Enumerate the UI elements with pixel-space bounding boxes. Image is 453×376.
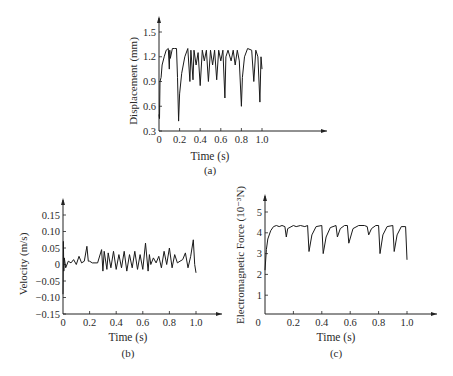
x-axis-arrow-icon [431, 312, 437, 316]
y-axis-arrow-icon [157, 16, 161, 23]
x-tick-label: 0.2 [173, 134, 186, 145]
y-tick-label: 5 [257, 207, 262, 218]
x-axis-label: Time (s) [191, 150, 230, 163]
y-tick-label: 1 [257, 290, 262, 301]
x-axis-arrow-icon [321, 129, 327, 133]
displacement-curve [159, 49, 262, 122]
x-tick-label: 0.8 [163, 317, 176, 328]
x-tick-label: 0.6 [344, 317, 357, 328]
y-tick-label: 0.05 [42, 243, 60, 254]
y-tick-label: 0.15 [42, 210, 60, 221]
x-tick-label: 0.4 [194, 134, 208, 145]
x-tick-label: 0 [60, 317, 65, 328]
x-tick-label: 0 [255, 317, 260, 328]
x-tick-label: 0.2 [83, 317, 96, 328]
x-axis-label: Time (s) [109, 331, 148, 344]
x-tick-label: 0 [156, 134, 161, 145]
figure: 00.20.40.60.81.00.30.60.91.21.5 Time (s)… [0, 0, 453, 376]
x-axis-arrow-icon [216, 312, 222, 316]
chart-velocity: 00.20.40.60.81.0−0.15−0.10−0.0500.050.10… [17, 198, 222, 360]
x-tick-label: 1.0 [255, 134, 268, 145]
x-tick-label: 0.4 [315, 317, 329, 328]
x-tick-label: 0.2 [287, 317, 300, 328]
y-tick-label: 0.3 [143, 126, 156, 137]
y-tick-label: −0.10 [36, 292, 60, 303]
x-tick-label: 0.6 [136, 317, 149, 328]
x-tick-label: 0.6 [214, 134, 227, 145]
chart-displacement: 00.20.40.60.81.00.30.60.91.21.5 Time (s)… [127, 16, 327, 177]
y-tick-label: 3 [257, 248, 262, 259]
y-tick-label: −0.05 [36, 276, 60, 287]
x-tick-label: 1.0 [400, 317, 413, 328]
x-axis-label: Time (s) [317, 331, 356, 344]
panel-caption: (a) [204, 164, 217, 177]
y-axis-label: Electromagnetic Force (10⁻³N) [234, 186, 247, 324]
x-tick-label: 0.8 [235, 134, 248, 145]
y-tick-label: 2 [257, 269, 262, 280]
y-axis-arrow-icon [61, 198, 65, 205]
y-tick-label: −0.15 [36, 309, 60, 320]
y-tick-label: 4 [257, 227, 263, 238]
y-tick-label: 0 [55, 259, 60, 270]
y-axis-label: Displacement (mm) [127, 37, 140, 125]
x-tick-label: 1.0 [189, 317, 202, 328]
x-tick-label: 0.4 [110, 317, 124, 328]
panel-caption: (c) [330, 347, 343, 360]
force-curve [265, 226, 407, 271]
y-tick-label: 0.9 [143, 76, 156, 87]
y-axis-arrow-icon [263, 194, 267, 201]
x-tick-label: 0.8 [372, 317, 385, 328]
y-tick-label: 0.6 [143, 101, 156, 112]
panel-caption: (b) [122, 347, 135, 360]
y-tick-label: 1.2 [143, 51, 156, 62]
y-axis-label: Velocity (m/s) [17, 232, 30, 295]
y-tick-label: 0.10 [42, 226, 60, 237]
y-tick-label: 1.5 [143, 27, 156, 38]
chart-electromagnetic-force: 00.20.40.60.81.012345 Time (s) (c) Elect… [234, 186, 437, 360]
velocity-curve [63, 240, 196, 294]
